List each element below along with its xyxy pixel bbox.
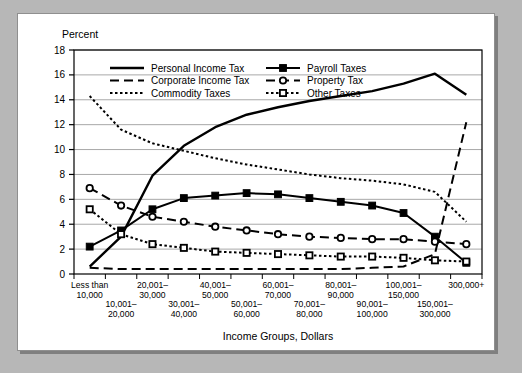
x-tick-label-3: 30,001– [168, 299, 199, 309]
data-point [181, 219, 187, 225]
legend-label: Property Tax [307, 75, 363, 86]
data-point [306, 252, 312, 258]
data-point [338, 235, 344, 241]
x-tick-label-11: 150,001– [417, 299, 453, 309]
x-tick-label-12: 300,000+ [448, 280, 484, 290]
data-point [463, 258, 469, 264]
legend-item-3[interactable]: Payroll Taxes [266, 63, 366, 74]
legend-item-1[interactable]: Corporate Income Tax [110, 75, 249, 86]
data-point [212, 249, 218, 255]
data-point [432, 257, 438, 263]
x-tick-label-4: 40,001– [200, 280, 231, 290]
legend-item-4[interactable]: Property Tax [266, 75, 363, 86]
x-tick-labels: Less than10,00010,001–20,00020,001–30,00… [71, 280, 484, 319]
x-tick-label-8: 90,000 [328, 290, 355, 300]
data-point [338, 253, 344, 259]
data-point [149, 241, 155, 247]
data-point [212, 224, 218, 230]
x-tick-label-9: 100,000 [357, 309, 388, 319]
data-point [87, 206, 93, 212]
data-point [275, 231, 281, 237]
data-point [181, 245, 187, 251]
x-tick-label-7: 80,000 [296, 309, 323, 319]
x-tick-label-2: 20,001– [137, 280, 168, 290]
data-point [244, 250, 250, 256]
data-point [149, 206, 156, 213]
x-tick-label-4: 50,000 [202, 290, 229, 300]
data-point [149, 214, 155, 220]
x-tick-label-1: 10,001– [106, 299, 137, 309]
y-tick-label: 0 [59, 269, 65, 280]
y-tick-label: 18 [54, 45, 66, 56]
data-point [118, 202, 124, 208]
chart-card: Percent024681012141618Less than10,00010,… [17, 13, 495, 351]
legend-marker [280, 77, 286, 83]
data-point [118, 231, 124, 237]
data-point [369, 202, 376, 209]
x-tick-label-7: 70,001– [294, 299, 325, 309]
data-point [86, 243, 93, 250]
legend-label: Payroll Taxes [307, 63, 366, 74]
x-tick-label-10: 150,000 [388, 290, 419, 300]
data-point [243, 227, 249, 233]
y-axis-title: Percent [62, 28, 98, 40]
x-tick-label-11: 300,000 [419, 309, 450, 319]
legend-item-5[interactable]: Other Taxes [266, 88, 361, 99]
data-point [369, 253, 375, 259]
y-tick-label: 10 [54, 144, 66, 155]
legend-label: Commodity Taxes [151, 88, 230, 99]
data-point [212, 192, 219, 199]
x-tick-label-9: 90,001– [357, 299, 388, 309]
data-point [275, 191, 282, 198]
data-point [243, 190, 250, 197]
x-tick-label-2: 30,000 [139, 290, 166, 300]
x-tick-label-6: 60,001– [262, 280, 293, 290]
series-commodity-taxes [90, 96, 467, 222]
data-point [86, 185, 92, 191]
legend-label: Personal Income Tax [151, 63, 244, 74]
series-line [90, 96, 467, 222]
data-point [463, 241, 469, 247]
chart-legend: Personal Income TaxCorporate Income TaxC… [110, 63, 366, 99]
data-point [306, 233, 312, 239]
data-point [306, 195, 313, 202]
x-tick-label-0: Less than [71, 280, 108, 290]
chart-figure: Percent024681012141618Less than10,00010,… [18, 14, 494, 350]
data-point [400, 210, 407, 217]
x-tick-label-5: 60,000 [233, 309, 260, 319]
data-point [337, 198, 344, 205]
x-tick-label-10: 100,001– [386, 280, 422, 290]
data-point [180, 195, 187, 202]
y-tick-label: 8 [59, 169, 65, 180]
x-tick-label-6: 70,000 [265, 290, 292, 300]
y-tick-label: 6 [59, 194, 65, 205]
y-tick-label: 12 [54, 119, 66, 130]
legend-item-2[interactable]: Commodity Taxes [110, 88, 230, 99]
legend-marker [280, 90, 286, 96]
x-tick-label-3: 40,000 [171, 309, 198, 319]
y-tick-label: 14 [54, 94, 66, 105]
data-point [275, 251, 281, 257]
data-point [400, 236, 406, 242]
data-point [432, 238, 438, 244]
data-point [369, 236, 375, 242]
x-tick-label-1: 20,000 [108, 309, 135, 319]
y-tick-label: 4 [59, 219, 65, 230]
y-tick-label: 2 [59, 244, 65, 255]
x-ticks [74, 274, 482, 279]
legend-marker [280, 65, 287, 72]
x-tick-label-8: 80,001– [325, 280, 356, 290]
x-tick-label-0: 10,000 [77, 290, 104, 300]
x-tick-label-5: 50,001– [231, 299, 262, 309]
data-point [400, 255, 406, 261]
legend-item-0[interactable]: Personal Income Tax [110, 63, 244, 74]
y-tick-label: 16 [54, 69, 66, 80]
legend-label: Corporate Income Tax [151, 75, 249, 86]
series-group [86, 74, 469, 269]
x-axis-title: Income Groups, Dollars [223, 330, 333, 342]
tax-burden-line-chart: Percent024681012141618Less than10,00010,… [18, 14, 496, 352]
legend-label: Other Taxes [307, 88, 361, 99]
